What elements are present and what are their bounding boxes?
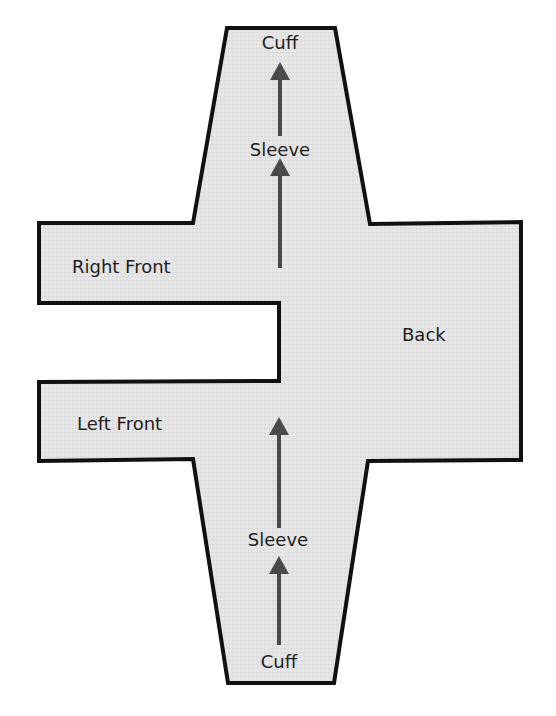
bottom-sleeve-label: Sleeve xyxy=(248,529,308,550)
back-label: Back xyxy=(402,324,446,345)
left-front-label: Left Front xyxy=(77,413,162,434)
right-front-label: Right Front xyxy=(72,256,171,277)
garment-pattern-diagram: Cuff Sleeve Right Front Back Left Front … xyxy=(0,0,556,716)
top-sleeve-label: Sleeve xyxy=(250,139,310,160)
top-cuff-label: Cuff xyxy=(262,32,299,53)
bottom-cuff-label: Cuff xyxy=(261,651,298,672)
